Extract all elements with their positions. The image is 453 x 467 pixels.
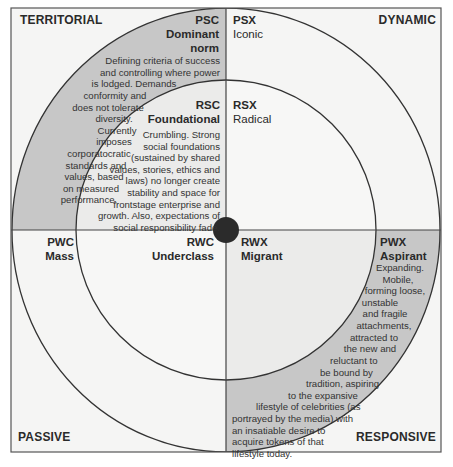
psc-code: PSC	[59, 13, 219, 27]
corner-label-passive: PASSIVE	[18, 430, 71, 444]
pwx-name: Aspirant	[380, 249, 427, 263]
rwc-code: RWC	[114, 235, 214, 249]
pwx-description-cont: reluctant to be bound by tradition, aspi…	[232, 355, 412, 459]
psx-name: Iconic	[233, 27, 263, 41]
pwc-segment: PWC Mass	[30, 235, 74, 263]
rsc-description: Crumbling. Strong social foundations (su…	[60, 129, 220, 233]
rsx-code: RSX	[233, 98, 271, 112]
pwx-segment: PWX Aspirant	[380, 235, 427, 263]
pwc-code: PWC	[30, 235, 74, 249]
pwx-description: Expanding. Mobile, forming loose, unstab…	[300, 262, 440, 355]
rsx-name: Radical	[233, 112, 271, 126]
pwx-code: PWX	[380, 235, 427, 249]
rwx-code: RWX	[241, 235, 283, 249]
psc-name-line1: Dominant	[59, 27, 219, 41]
rwx-segment: RWX Migrant	[241, 235, 283, 263]
rwc-name: Underclass	[114, 249, 214, 263]
rsc-segment: RSC Foundational	[100, 98, 220, 126]
segmentation-diagram: TERRITORIAL DYNAMIC PASSIVE RESPONSIVE P…	[0, 0, 453, 467]
psc-segment: PSC Dominant norm	[59, 13, 219, 55]
rsc-name: Foundational	[100, 112, 220, 126]
pwc-name: Mass	[30, 249, 74, 263]
rwx-name: Migrant	[241, 249, 283, 263]
psx-segment: PSX Iconic	[233, 13, 263, 41]
rsx-segment: RSX Radical	[233, 98, 271, 126]
corner-label-dynamic: DYNAMIC	[379, 13, 436, 27]
rwc-segment: RWC Underclass	[114, 235, 214, 263]
psc-description: Defining criteria of success and control…	[70, 55, 220, 90]
rsc-code: RSC	[100, 98, 220, 112]
psx-code: PSX	[233, 13, 263, 27]
psc-name-line2: norm	[59, 41, 219, 55]
